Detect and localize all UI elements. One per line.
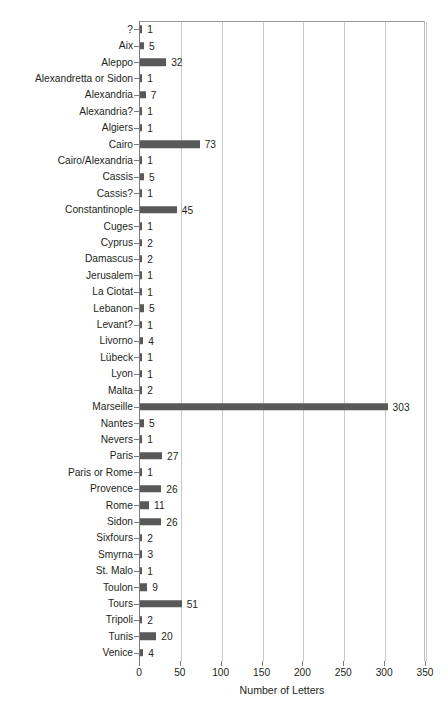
- category-label: Algiers: [0, 122, 133, 133]
- category-label: Cuges: [0, 221, 133, 232]
- bar: [140, 633, 156, 641]
- chart-row: Cairo/Alexandria1: [0, 152, 447, 168]
- category-label: Sidon: [0, 516, 133, 527]
- category-label: Nantes: [0, 418, 133, 429]
- bar: [140, 370, 142, 378]
- y-axis-tick: [134, 243, 139, 244]
- category-label: Aleppo: [0, 57, 133, 68]
- bar-value-label: 1: [147, 122, 153, 133]
- bar-value-label: 11: [154, 500, 165, 511]
- bar-value-label: 1: [147, 352, 153, 363]
- bar: [140, 124, 142, 132]
- bar-value-label: 5: [149, 171, 155, 182]
- x-axis-tick-50: [180, 661, 181, 666]
- bar: [140, 583, 147, 591]
- bar: [140, 485, 161, 493]
- bar-value-label: 32: [171, 57, 182, 68]
- chart-row: Nantes5: [0, 415, 447, 431]
- category-label: Cairo/Alexandria: [0, 155, 133, 166]
- bar: [140, 567, 142, 575]
- x-axis-tick-label: 200: [294, 667, 311, 679]
- bar-value-label: 73: [205, 139, 216, 150]
- category-label: Sixfours: [0, 532, 133, 543]
- x-axis-title: Number of Letters: [139, 684, 425, 696]
- bar: [140, 419, 144, 427]
- chart-row: Cuges1: [0, 218, 447, 234]
- y-axis-tick: [134, 357, 139, 358]
- bar-value-label: 2: [147, 614, 153, 625]
- chart-row: Smyrna3: [0, 546, 447, 562]
- category-label: Lübeck: [0, 352, 133, 363]
- y-axis-tick: [134, 292, 139, 293]
- chart-row: Tunis20: [0, 628, 447, 644]
- y-axis-tick: [134, 46, 139, 47]
- category-label: Cairo: [0, 139, 133, 150]
- category-label: Lebanon: [0, 303, 133, 314]
- y-axis-tick: [134, 95, 139, 96]
- bar: [140, 140, 200, 148]
- bar: [140, 255, 142, 263]
- category-label: ?: [0, 24, 133, 35]
- y-axis-tick: [134, 160, 139, 161]
- y-axis-tick: [134, 144, 139, 145]
- x-axis-tick-200: [302, 661, 303, 666]
- y-axis-tick: [134, 341, 139, 342]
- chart-row: Sidon26: [0, 513, 447, 529]
- category-label: La Ciotat: [0, 286, 133, 297]
- bar: [140, 600, 182, 608]
- bar-value-label: 27: [167, 450, 178, 461]
- bar-value-label: 20: [161, 631, 172, 642]
- chart-row: Venice4: [0, 645, 447, 661]
- bar: [140, 501, 149, 509]
- chart-row: Lyon1: [0, 366, 447, 382]
- x-axis-tick-label: 100: [212, 667, 229, 679]
- chart-row: Cassis5: [0, 169, 447, 185]
- category-label: Rome: [0, 500, 133, 511]
- chart-row: Aleppo32: [0, 54, 447, 70]
- bar-value-label: 7: [151, 89, 157, 100]
- y-axis-tick: [134, 210, 139, 211]
- chart-row: Nevers1: [0, 431, 447, 447]
- bar: [140, 436, 142, 444]
- x-axis-tick-label: 150: [253, 667, 270, 679]
- category-label: Tours: [0, 598, 133, 609]
- category-label: Levant?: [0, 319, 133, 330]
- category-label: St. Malo: [0, 565, 133, 576]
- y-axis-tick: [134, 177, 139, 178]
- chart-row: Lübeck1: [0, 349, 447, 365]
- category-label: Constantinople: [0, 204, 133, 215]
- y-axis-tick: [134, 193, 139, 194]
- bar-value-label: 1: [147, 221, 153, 232]
- category-label: Tripoli: [0, 614, 133, 625]
- x-axis-tick-100: [221, 661, 222, 666]
- bar: [140, 288, 142, 296]
- bar: [140, 304, 144, 312]
- category-label: Malta: [0, 385, 133, 396]
- bar-value-label: 3: [147, 549, 153, 560]
- chart-row: Sixfours2: [0, 530, 447, 546]
- y-axis-tick: [134, 407, 139, 408]
- y-axis-tick: [134, 62, 139, 63]
- x-axis-tick-label: 0: [136, 667, 142, 679]
- chart-row: Tours51: [0, 595, 447, 611]
- y-axis-tick: [134, 472, 139, 473]
- bar-value-label: 26: [166, 483, 177, 494]
- chart-row: Rome11: [0, 497, 447, 513]
- bar: [140, 649, 143, 657]
- bar: [140, 58, 166, 66]
- bar-value-label: 26: [166, 516, 177, 527]
- x-axis-tick-label: 300: [376, 667, 393, 679]
- bar-value-label: 5: [149, 303, 155, 314]
- category-label: Toulon: [0, 582, 133, 593]
- chart-row: Paris27: [0, 448, 447, 464]
- bar-value-label: 5: [149, 40, 155, 51]
- category-label: Alexandretta or Sidon: [0, 73, 133, 84]
- y-axis-tick: [134, 505, 139, 506]
- y-axis-tick: [134, 604, 139, 605]
- bar-value-label: 2: [147, 385, 153, 396]
- bar-value-label: 45: [182, 204, 193, 215]
- bar: [140, 534, 142, 542]
- y-axis-tick: [134, 128, 139, 129]
- chart-row: Levant?1: [0, 316, 447, 332]
- y-axis-tick: [134, 275, 139, 276]
